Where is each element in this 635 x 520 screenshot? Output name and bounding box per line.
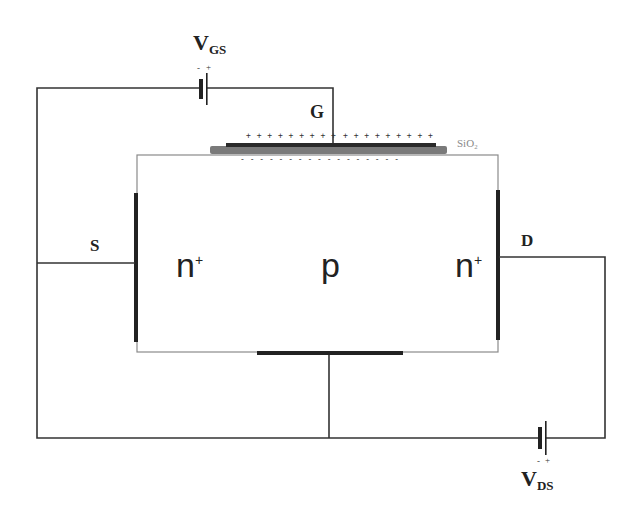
vds-label: VDS [521, 468, 554, 490]
gate-label: G [310, 103, 324, 121]
gate-positive-charges-right: + + + + + + + + + [343, 132, 433, 140]
drain-label: D [521, 232, 533, 249]
source-label: S [90, 237, 99, 254]
channel-negative-charges: - - - - - - - - - - - - - - - - - [240, 156, 399, 164]
source-n-plus-region: n+ [176, 248, 203, 282]
vds-polarity-minus: - [537, 457, 540, 466]
vgs-subscript: GS [209, 42, 226, 57]
n-label: n [455, 246, 474, 284]
vds-main: V [521, 466, 537, 491]
vds-polarity-plus: + [545, 456, 550, 465]
vgs-battery-icon [199, 73, 208, 105]
mosfet-circuit-diagram [0, 0, 635, 520]
gate-positive-charges-left: + + + + + + + + + [246, 132, 336, 140]
gate-oxide-layer [210, 146, 447, 154]
drain-contact [496, 190, 500, 340]
vds-subscript: DS [537, 478, 554, 493]
plus-superscript: + [474, 252, 482, 268]
p-label: p [321, 246, 340, 284]
body-contact [257, 351, 403, 355]
drain-n-plus-region: n+ [455, 248, 482, 282]
oxide-label: SiO₂ [457, 138, 478, 149]
gate-metal-electrode [226, 143, 436, 147]
vgs-main: V [193, 30, 209, 55]
vgs-label: VGS [193, 32, 226, 54]
source-contact [134, 193, 138, 342]
vds-battery-icon [538, 421, 547, 455]
vgs-polarity-plus: + [206, 63, 211, 72]
vgs-polarity-minus: - [197, 64, 200, 73]
drain-wire [499, 257, 605, 438]
body-p-region: p [321, 248, 340, 282]
n-label: n [176, 246, 195, 284]
plus-superscript: + [195, 252, 203, 268]
